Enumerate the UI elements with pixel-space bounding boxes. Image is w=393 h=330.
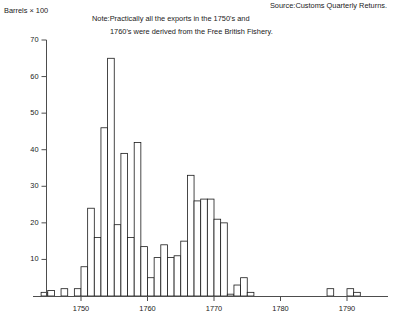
bar [234,285,241,296]
bar [241,278,248,296]
bar [207,199,214,296]
bar [61,289,68,296]
bar [214,219,221,296]
y-tick-label: 10 [21,254,39,263]
bar [88,208,95,296]
bar [154,258,161,296]
bar [114,225,121,296]
bar [174,256,181,296]
bar [181,241,188,296]
bar [161,245,168,296]
bar [141,247,148,296]
chart-figure: Source:Customs Quarterly Returns. Note:P… [0,0,393,330]
bar [227,294,234,296]
bar [327,289,334,296]
y-tick-label: 50 [21,108,39,117]
bar [108,58,115,296]
y-tick-label: 30 [21,181,39,190]
x-tick-label: 1750 [64,304,98,313]
bar [148,278,155,296]
bar [101,128,108,296]
bar [128,237,135,296]
bar [167,258,174,296]
bar [354,292,361,296]
bar [187,175,194,296]
bar [94,237,101,296]
bar [221,223,228,296]
histogram-plot [0,0,393,330]
x-tick-label: 1770 [197,304,231,313]
bar [81,267,88,296]
bar [247,292,254,296]
bar [74,289,81,296]
y-tick-label: 70 [21,35,39,44]
y-tick-label: 40 [21,145,39,154]
bar [121,153,128,296]
bar [48,291,55,296]
bars-group [41,58,360,296]
x-tick-label: 1790 [330,304,364,313]
y-tick-label: 20 [21,218,39,227]
bar [194,201,201,296]
bar [201,199,208,296]
x-tick-label: 1760 [131,304,165,313]
bar [347,289,354,296]
y-tick-label: 60 [21,72,39,81]
bar [134,142,141,296]
x-tick-label: 1780 [264,304,298,313]
